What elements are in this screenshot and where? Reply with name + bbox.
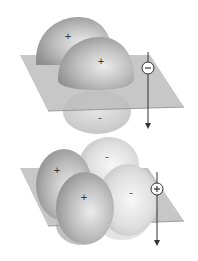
lobe-front-left-positive [56,172,114,244]
sign-plus-front: + [97,56,105,66]
top-orbital-diagram: + + – [20,17,184,134]
sign-minus-front-right: – [129,189,133,198]
sign-plus-front-left: + [80,192,88,202]
sign-minus-back-right: – [105,153,109,162]
bottom-orbital-diagram: – + – + [20,137,184,246]
down-arrow-icon [145,123,151,129]
sign-plus-back-left: + [53,165,61,175]
sign-minus-below: – [98,114,102,123]
sign-plus-back: + [64,31,72,41]
orbital-diagram: + + – – + – + [0,0,198,261]
down-arrow-icon [154,240,160,246]
